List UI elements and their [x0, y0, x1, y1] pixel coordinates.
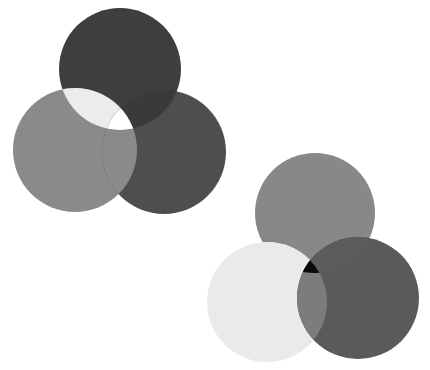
- venn-group-top-left: [13, 8, 226, 214]
- venn-group-bottom-right: [207, 153, 419, 362]
- venn-diagram-canvas: [0, 0, 430, 370]
